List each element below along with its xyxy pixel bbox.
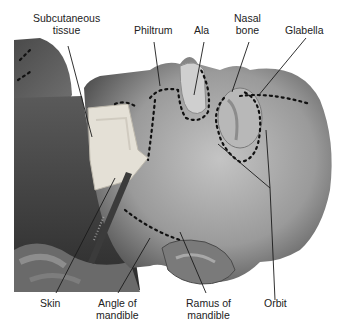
label-angle-of-mandible: Angle of mandible	[96, 297, 139, 321]
label-line: Nasal	[234, 12, 261, 24]
label-line: mandible	[186, 309, 231, 321]
label-line: Subcutaneous	[33, 12, 100, 24]
label-line: bone	[234, 24, 261, 36]
label-line: Philtrum	[134, 24, 173, 36]
label-line: Angle of	[96, 297, 139, 309]
anatomy-figure: Subcutaneous tissue Philtrum Ala Nasal b…	[0, 0, 343, 330]
label-skin: Skin	[40, 297, 60, 309]
label-subcutaneous-tissue: Subcutaneous tissue	[33, 12, 100, 36]
label-nasal-bone: Nasal bone	[234, 12, 261, 36]
shoulder-region	[14, 38, 72, 100]
label-ramus-of-mandible: Ramus of mandible	[186, 297, 231, 321]
label-orbit: Orbit	[264, 297, 287, 309]
label-ala: Ala	[194, 24, 209, 36]
label-line: Ala	[194, 24, 209, 36]
label-line: Ramus of	[186, 297, 231, 309]
label-line: mandible	[96, 309, 139, 321]
label-glabella: Glabella	[285, 24, 324, 36]
label-philtrum: Philtrum	[134, 24, 173, 36]
label-line: tissue	[33, 24, 100, 36]
head-photograph	[0, 0, 343, 330]
label-line: Glabella	[285, 24, 324, 36]
label-line: Skin	[40, 297, 60, 309]
label-line: Orbit	[264, 297, 287, 309]
